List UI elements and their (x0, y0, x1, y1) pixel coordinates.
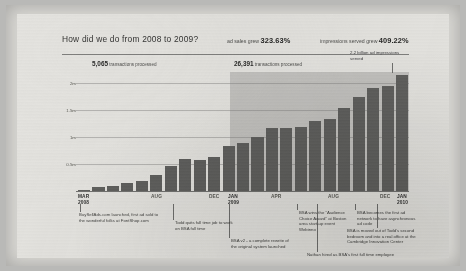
poster-frame: How did we do from 2008 to 2009? ad sale… (6, 5, 460, 266)
bar (150, 175, 162, 191)
stat-ad-sales-label: ad sales grew (227, 38, 259, 44)
bar-chart: 5,065 transactions processed 26,391 tran… (62, 72, 409, 192)
y-axis-tick-label: 1.5m (62, 107, 76, 112)
bar (309, 121, 321, 191)
xlabel-jan-2010: JAN 2010 (397, 194, 408, 206)
xlabel-dec-2008: DEC (209, 194, 219, 200)
bar (324, 119, 336, 191)
annotation-bsa-v2: BSA v2 - a complete rewrite of the origi… (231, 238, 291, 249)
callout-2009-value: 26,391 (234, 60, 254, 67)
bar (223, 146, 235, 191)
bar (280, 128, 292, 191)
bar (251, 137, 263, 191)
xlabel-dec-2009: DEC (380, 194, 390, 200)
bar (338, 108, 350, 191)
bar (121, 183, 133, 191)
bar (266, 128, 278, 191)
callout-2009-label: transactions processed (255, 62, 302, 67)
annotation-async: BSA becomes the first ad network to have… (357, 210, 419, 227)
poster-page: How did we do from 2008 to 2009? ad sale… (17, 14, 449, 258)
bar (136, 181, 148, 191)
xlabel-apr-2009: APR (271, 194, 281, 200)
page-title: How did we do from 2008 to 2009? (62, 34, 198, 44)
leader-line-todd (173, 204, 174, 220)
y-axis-tick-label: 1m (62, 134, 76, 139)
bar (194, 160, 206, 191)
bar (396, 75, 408, 191)
callout-impressions: 2.2 billion ad impressions served (350, 50, 410, 61)
xlabel-aug-2009: AUG (328, 194, 339, 200)
bar (208, 157, 220, 191)
bar (353, 97, 365, 191)
annotation-todd: Todd quits full time job to work on BSA … (175, 220, 237, 231)
bar (367, 88, 379, 191)
bar (295, 127, 307, 191)
stat-ad-sales: ad sales grew 323.63% (227, 36, 290, 45)
bar-series (78, 72, 408, 191)
leader-line-webinno (297, 204, 298, 210)
annotation-office: BSA is moved out of Todd's second bedroo… (347, 228, 425, 245)
y-axis-tick-label: 0.5m (62, 161, 76, 166)
annotation-nathan: Nathan hired as BSA's first full time em… (307, 252, 437, 258)
xlabel-aug-2008: AUG (151, 194, 162, 200)
leader-line-async (355, 204, 356, 210)
stat-ad-sales-value: 323.63% (260, 36, 290, 45)
stat-impressions-value: 409.22% (379, 36, 409, 45)
annotation-webinno: BSA wins the "Audience Choice Award" at … (299, 210, 349, 233)
xlabel-jan-2010-year: 2010 (397, 200, 408, 206)
leader-line-launch (80, 204, 81, 212)
stat-impressions: impressions served grew 409.22% (320, 36, 409, 45)
callout-2009: 26,391 transactions processed (234, 60, 302, 67)
bar (237, 143, 249, 191)
annotation-launch: BuySellAds.com launched, first ad sold t… (79, 212, 163, 223)
bar (179, 159, 191, 191)
x-axis-labels: MAR 2008 AUG DEC JAN 2009 APR AUG DEC JA… (62, 194, 409, 210)
stat-impressions-label: impressions served grew (320, 38, 377, 44)
x-axis-line (76, 191, 409, 192)
callout-2008: 5,065 transactions processed (92, 60, 157, 67)
bar (382, 86, 394, 191)
y-axis-tick-label: 2m (62, 80, 76, 85)
callout-2008-label: transactions processed (109, 62, 156, 67)
callout-2008-value: 5,065 (92, 60, 108, 67)
bar (165, 166, 177, 191)
